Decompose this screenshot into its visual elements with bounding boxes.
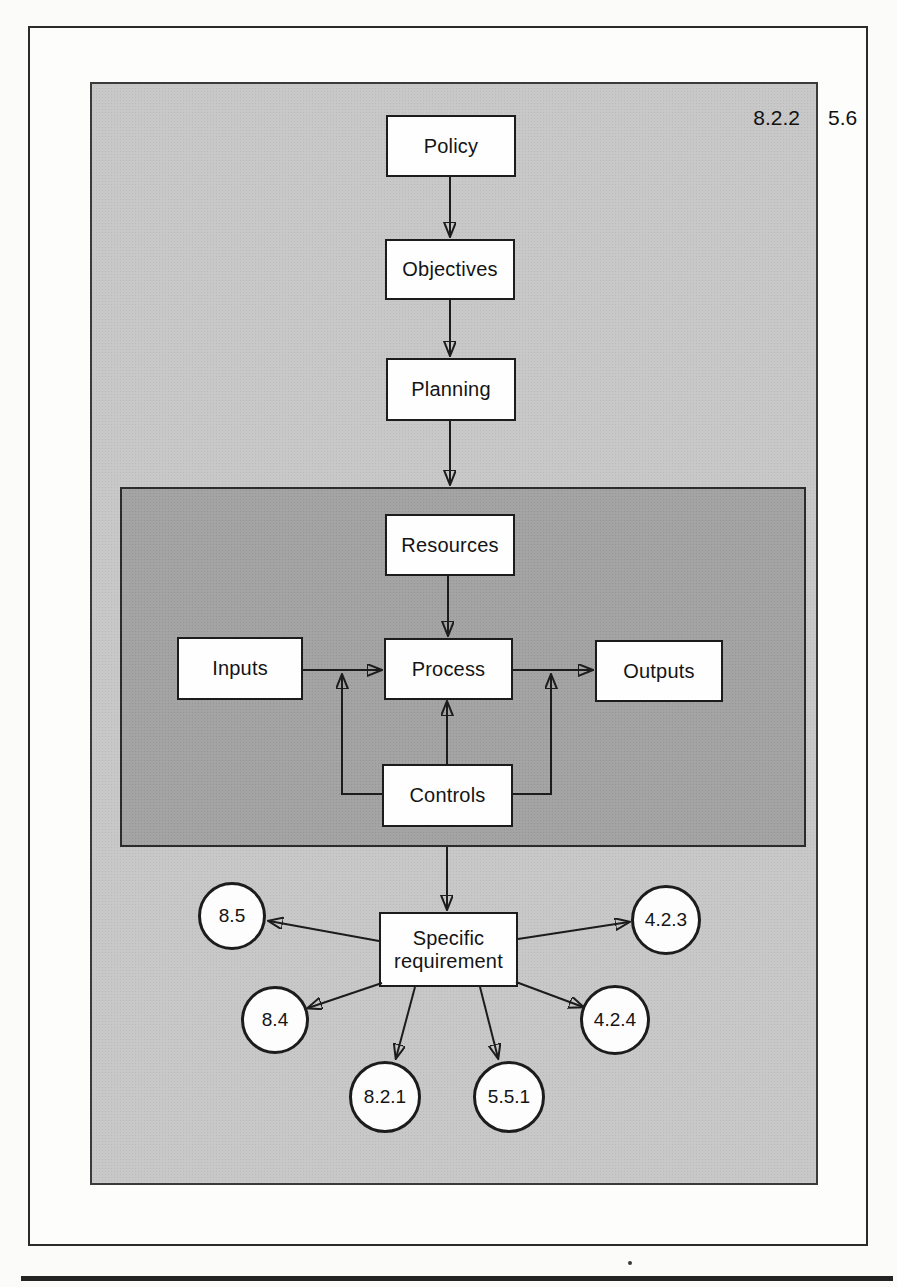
specific-requirement-line1: Specific	[413, 927, 485, 950]
planning-label: Planning	[411, 378, 490, 401]
clause-circle-8-4: 8.4	[241, 986, 309, 1054]
outputs-label: Outputs	[623, 660, 694, 683]
objectives-label: Objectives	[402, 258, 497, 281]
resources-box: Resources	[385, 514, 515, 576]
planning-box: Planning	[386, 358, 516, 421]
figure-frame: 8.2.2 5.6 Policy Objectives Planning Res…	[28, 26, 868, 1246]
clause-circle-5-5-1: 5.5.1	[473, 1061, 545, 1133]
policy-label: Policy	[424, 135, 479, 158]
specific-requirement-box: Specific requirement	[379, 912, 518, 987]
policy-box: Policy	[386, 115, 516, 177]
clause-circle-8-5: 8.5	[198, 882, 266, 950]
process-label: Process	[412, 658, 486, 681]
clause-circle-8-4-label: 8.4	[262, 1009, 288, 1031]
clause-label-outer: 5.6	[828, 106, 857, 130]
process-box: Process	[384, 638, 513, 700]
clause-circle-4-2-3: 4.2.3	[631, 885, 701, 955]
clause-circle-8-2-1: 8.2.1	[349, 1061, 421, 1133]
controls-label: Controls	[409, 784, 485, 807]
clause-circle-8-5-label: 8.5	[219, 905, 245, 927]
page-bottom-rule	[21, 1276, 893, 1281]
clause-circle-4-2-3-label: 4.2.3	[645, 909, 687, 931]
objectives-box: Objectives	[385, 239, 515, 300]
clause-circle-4-2-4: 4.2.4	[580, 985, 650, 1055]
clause-label-inner: 8.2.2	[710, 106, 800, 130]
clause-circle-4-2-4-label: 4.2.4	[594, 1009, 636, 1031]
controls-box: Controls	[382, 764, 513, 827]
clause-circle-8-2-1-label: 8.2.1	[364, 1086, 406, 1108]
resources-label: Resources	[401, 534, 498, 557]
scan-speck-dot	[628, 1261, 632, 1265]
inputs-label: Inputs	[212, 657, 268, 680]
inputs-box: Inputs	[177, 637, 303, 700]
clause-circle-5-5-1-label: 5.5.1	[488, 1086, 530, 1108]
outputs-box: Outputs	[595, 640, 723, 702]
specific-requirement-line2: requirement	[394, 950, 503, 973]
